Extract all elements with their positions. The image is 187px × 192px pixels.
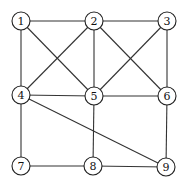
edge-8-9 [93, 166, 166, 167]
node-label: 5 [91, 90, 98, 103]
graph-diagram: 123456789 [0, 0, 187, 192]
edge-5-8 [93, 96, 94, 166]
node-7: 7 [12, 157, 30, 175]
node-8: 8 [84, 157, 102, 175]
node-6: 6 [158, 87, 176, 105]
node-label: 3 [164, 15, 171, 28]
node-4: 4 [12, 86, 30, 104]
node-label: 9 [163, 161, 170, 174]
node-label: 8 [90, 160, 97, 173]
edge-4-5 [21, 95, 94, 96]
node-9: 9 [157, 158, 175, 176]
node-label: 4 [18, 89, 25, 102]
node-5: 5 [85, 87, 103, 105]
node-1: 1 [12, 12, 30, 30]
node-label: 7 [18, 160, 25, 173]
node-2: 2 [85, 12, 103, 30]
edge-6-9 [166, 96, 167, 167]
node-3: 3 [158, 12, 176, 30]
node-label: 2 [91, 15, 98, 28]
node-label: 6 [164, 90, 171, 103]
node-label: 1 [18, 15, 25, 28]
